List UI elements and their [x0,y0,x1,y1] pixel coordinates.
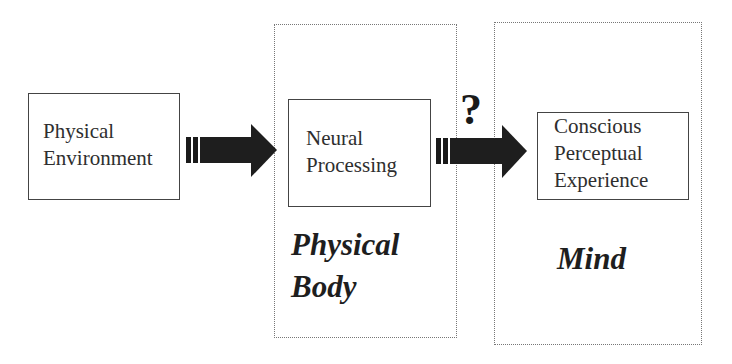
node-label-neural: Neural [306,126,363,151]
group-label-physical: Physical [291,226,400,264]
node-label-physical: Physical [43,119,114,144]
node-label-environment: Environment [43,146,153,171]
node-label-experience: Experience [554,168,648,193]
group-label-mind: Mind [557,240,626,278]
group-label-body: Body [291,268,356,306]
question-mark-label: ? [460,88,482,132]
node-label-perceptual: Perceptual [554,141,643,166]
node-label-processing: Processing [306,153,397,178]
diagram-canvas: Physical Environment Neural Processing C… [0,0,732,364]
arrow-right-icon [184,122,279,180]
node-label-conscious: Conscious [554,114,642,139]
